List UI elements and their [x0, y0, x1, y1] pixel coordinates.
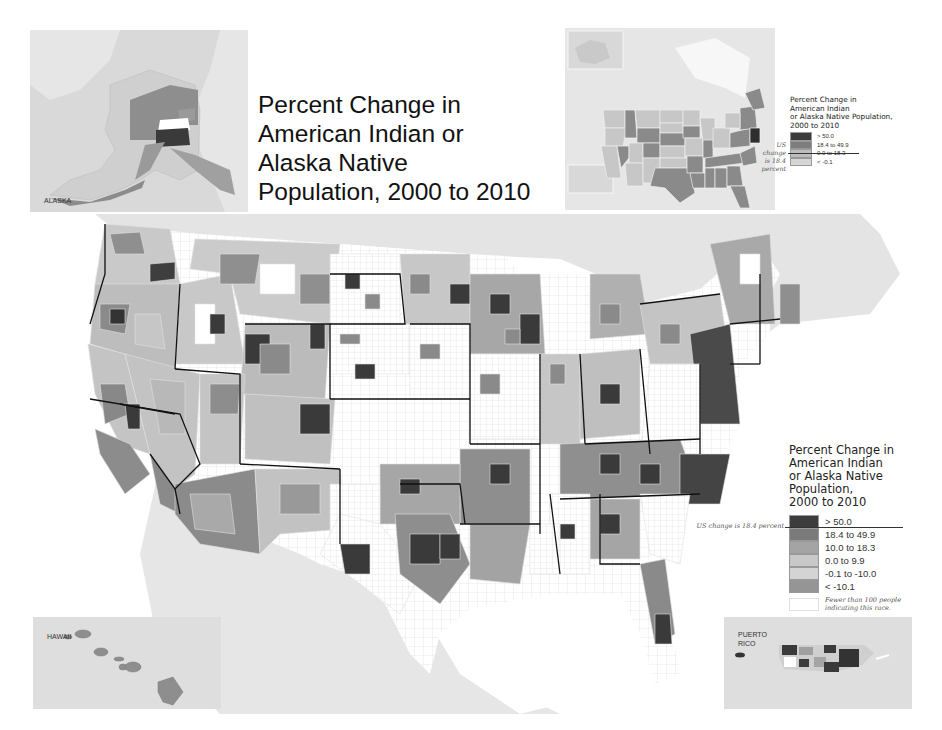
- legend-swatch: [789, 598, 819, 611]
- puerto-rico-label: PUERTO RICO: [738, 630, 767, 648]
- alaska-inset: ALASKA: [30, 30, 248, 212]
- legend-swatch: [789, 528, 819, 541]
- county-us-change-note: US change is 18.4 percent: [680, 522, 784, 530]
- legend-swatch: [790, 158, 812, 167]
- hawaii-map: [33, 617, 221, 709]
- title-line-4: Population, 2000 to 2010: [258, 177, 548, 206]
- title-line-1: Percent Change in: [258, 90, 548, 119]
- state-legend: Percent Change in American Indian or Ala…: [790, 96, 940, 166]
- hawaii-inset: HAWAII: [33, 617, 221, 709]
- county-legend-item: 10.0 to 18.3: [789, 541, 939, 554]
- alaska-label: ALASKA: [44, 196, 71, 205]
- puerto-rico-inset: PUERTO RICO: [724, 617, 912, 709]
- state-legend-item: < -0.1: [790, 158, 940, 167]
- county-legend-item: -0.1 to -10.0: [789, 567, 939, 580]
- county-legend-us-line: [785, 527, 903, 528]
- county-legend-title: Percent Change in American Indian or Ala…: [789, 444, 939, 509]
- legend-swatch: [789, 580, 819, 593]
- title-line-3: Alaska Native: [258, 148, 548, 177]
- legend-swatch: [790, 141, 812, 150]
- legend-swatch: [789, 567, 819, 580]
- state-us-change-note: US change is 18.4 percent: [740, 141, 786, 173]
- alaska-map: [30, 30, 248, 212]
- state-legend-title: Percent Change in American Indian or Ala…: [790, 96, 940, 130]
- state-level-inset: [565, 28, 775, 210]
- county-legend-item: 0.0 to 9.9: [789, 554, 939, 567]
- legend-swatch: [789, 541, 819, 554]
- county-legend-item: < -10.1: [789, 580, 939, 593]
- county-legend-no-data: Fewer than 100 people indicating this ra…: [789, 597, 939, 612]
- title-line-2: American Indian or: [258, 119, 548, 148]
- state-legend-item: 18.4 to 49.9: [790, 141, 940, 150]
- legend-swatch: [790, 132, 812, 141]
- state-legend-item: > 50.0: [790, 132, 940, 141]
- hawaii-label: HAWAII: [47, 632, 71, 641]
- county-legend-item: 18.4 to 49.9: [789, 528, 939, 541]
- map-title: Percent Change in American Indian or Ala…: [258, 90, 548, 206]
- state-level-map: [565, 28, 775, 210]
- county-legend: Percent Change in American Indian or Ala…: [789, 444, 939, 612]
- legend-swatch: [789, 554, 819, 567]
- state-legend-us-line: [788, 153, 859, 154]
